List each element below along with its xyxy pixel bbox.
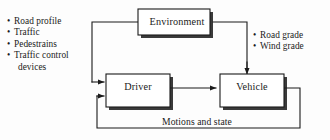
- list-item: • Traffic control devices: [7, 50, 69, 73]
- bullet-icon: •: [7, 16, 10, 27]
- list-item-label: Traffic control: [14, 50, 69, 60]
- list-item: • Wind grade: [253, 41, 304, 52]
- list-item-label: Road profile: [14, 16, 61, 26]
- list-item: • Pedestrains: [7, 39, 69, 50]
- list-item-label-continuation: devices: [14, 62, 69, 73]
- right-outputs-list: • Road grade • Wind grade: [253, 30, 304, 53]
- list-item-label: Traffic: [14, 27, 40, 37]
- feedback-path-label: Motions and state: [137, 116, 257, 127]
- environment-to-driver-link: [92, 22, 138, 82]
- list-item-label: Road grade: [260, 30, 303, 40]
- list-item: • Road grade: [253, 30, 304, 41]
- list-item: • Traffic: [7, 27, 69, 38]
- bullet-icon: •: [7, 27, 10, 38]
- bullet-icon: •: [7, 39, 10, 50]
- environment-block-label: Environment: [141, 16, 213, 27]
- vehicle-block-label: Vehicle: [221, 81, 283, 92]
- environment-to-vehicle-link: [213, 22, 247, 68]
- left-inputs-list: • Road profile • Traffic • Pedestrains •…: [7, 16, 69, 73]
- list-item-label: Wind grade: [260, 41, 304, 51]
- bullet-icon: •: [253, 30, 256, 41]
- list-item: • Road profile: [7, 16, 69, 27]
- bullet-icon: •: [253, 41, 256, 52]
- driver-block-label: Driver: [107, 81, 169, 92]
- list-item-label: Pedestrains: [14, 39, 57, 49]
- bullet-icon: •: [7, 50, 10, 61]
- block-diagram: • Road profile • Traffic • Pedestrains •…: [0, 0, 330, 140]
